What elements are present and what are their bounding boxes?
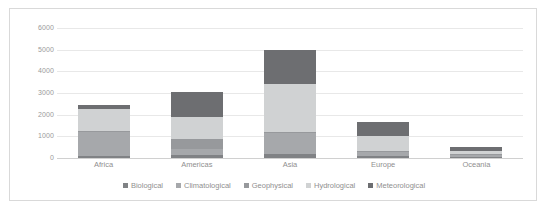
legend-label: Climatological bbox=[184, 181, 231, 190]
legend-label: Meteorological bbox=[376, 181, 425, 190]
x-axis-label-africa: Africa bbox=[57, 160, 150, 169]
legend-item[interactable]: Meteorological bbox=[368, 181, 425, 190]
bar-group[interactable] bbox=[357, 122, 409, 158]
bar-segment[interactable] bbox=[171, 155, 223, 158]
y-axis-tick-label: 4000 bbox=[14, 67, 54, 74]
bar-segment[interactable] bbox=[264, 132, 316, 153]
x-axis-category-labels: AfricaAmericasAsiaEuropeOceania bbox=[57, 160, 523, 176]
y-axis-tick-label: 6000 bbox=[14, 24, 54, 31]
x-axis-label-americas: Americas bbox=[150, 160, 243, 169]
legend-label: Geophysical bbox=[252, 181, 293, 190]
bar-group[interactable] bbox=[450, 147, 502, 158]
bar-segment[interactable] bbox=[78, 156, 130, 158]
x-axis-label-europe: Europe bbox=[337, 160, 430, 169]
bar-segment[interactable] bbox=[78, 131, 130, 132]
bar-segment[interactable] bbox=[357, 122, 409, 136]
bar-group[interactable] bbox=[264, 50, 316, 158]
bar-group[interactable] bbox=[78, 105, 130, 158]
bar-segment[interactable] bbox=[171, 139, 223, 150]
legend-swatch-icon bbox=[176, 183, 181, 188]
bar-segment[interactable] bbox=[357, 156, 409, 158]
bar-segment[interactable] bbox=[450, 147, 502, 151]
bar-segment[interactable] bbox=[78, 132, 130, 156]
bar-group[interactable] bbox=[171, 92, 223, 158]
chart-container: 6000500040003000200010000 AfricaAmericas… bbox=[9, 8, 537, 201]
bar-segment[interactable] bbox=[357, 151, 409, 152]
gridline bbox=[57, 28, 523, 29]
bar-segment[interactable] bbox=[450, 151, 502, 154]
bar-segment[interactable] bbox=[264, 50, 316, 85]
legend-item[interactable]: Climatological bbox=[176, 181, 231, 190]
bar-segment[interactable] bbox=[78, 109, 130, 130]
bar-segment[interactable] bbox=[357, 152, 409, 156]
legend-label: Hydrological bbox=[314, 181, 355, 190]
bar-segment[interactable] bbox=[171, 117, 223, 139]
legend-swatch-icon bbox=[123, 183, 128, 188]
y-axis-tick-label: 1000 bbox=[14, 132, 54, 139]
x-axis-label-oceania: Oceania bbox=[430, 160, 523, 169]
bar-segment[interactable] bbox=[171, 149, 223, 154]
x-axis-label-asia: Asia bbox=[243, 160, 336, 169]
bar-segment[interactable] bbox=[78, 105, 130, 109]
legend-item[interactable]: Hydrological bbox=[306, 181, 355, 190]
y-axis-tick-label: 3000 bbox=[14, 89, 54, 96]
bar-segment[interactable] bbox=[450, 157, 502, 158]
legend-item[interactable]: Geophysical bbox=[244, 181, 293, 190]
bar-segment[interactable] bbox=[264, 84, 316, 131]
y-axis-tick-label: 2000 bbox=[14, 111, 54, 118]
bar-segment[interactable] bbox=[264, 132, 316, 133]
y-axis-tick-label: 5000 bbox=[14, 46, 54, 53]
legend-swatch-icon bbox=[244, 183, 249, 188]
bar-segment[interactable] bbox=[171, 92, 223, 117]
bar-segment[interactable] bbox=[264, 154, 316, 158]
axis-baseline bbox=[57, 158, 523, 159]
chart-legend: BiologicalClimatologicalGeophysicalHydro… bbox=[10, 181, 538, 190]
legend-swatch-icon bbox=[368, 183, 373, 188]
bar-segment[interactable] bbox=[450, 155, 502, 157]
legend-item[interactable]: Biological bbox=[123, 181, 163, 190]
bar-segment[interactable] bbox=[450, 154, 502, 155]
y-axis-tick-label: 0 bbox=[14, 154, 54, 161]
legend-swatch-icon bbox=[306, 183, 311, 188]
plot-area bbox=[57, 28, 523, 158]
legend-label: Biological bbox=[131, 181, 163, 190]
bar-segment[interactable] bbox=[357, 136, 409, 151]
y-axis-tick-labels: 6000500040003000200010000 bbox=[10, 28, 54, 158]
